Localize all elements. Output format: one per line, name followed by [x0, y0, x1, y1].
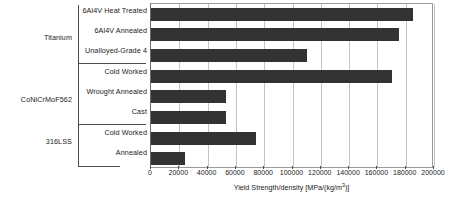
x-tick-label-0: 0 [148, 169, 152, 176]
x-axis-title: Yield Strength/density [MPa/(kg/m3)] [150, 182, 433, 192]
x-tick-label-160000: 160000 [365, 169, 388, 176]
bar-6 [151, 132, 256, 145]
group-label-316lss: 316LSS [8, 137, 72, 146]
gridline-180000 [406, 4, 407, 167]
bar-chart: Titanium CoNiCrMoF562 316LSS 6Al4V Heat … [0, 0, 463, 201]
group-label-titanium: Titanium [8, 33, 72, 42]
bar-7 [151, 152, 185, 165]
x-tick-label-40000: 40000 [197, 169, 216, 176]
bar-3 [151, 70, 392, 83]
category-label-cold-worked-cocr: Cold Worked [104, 67, 147, 76]
bar-1 [151, 28, 399, 41]
group-label-conicrmof562: CoNiCrMoF562 [2, 95, 72, 104]
x-tick-label-120000: 120000 [308, 169, 331, 176]
x-tick-label-60000: 60000 [225, 169, 244, 176]
x-tick-label-20000: 20000 [169, 169, 188, 176]
category-label-wrought-annealed: Wrought Annealed [86, 87, 147, 96]
category-label-6al4v-heat-treated: 6Al4V Heat Treated [82, 6, 147, 15]
x-axis-title-suffix: )] [345, 183, 349, 192]
bar-0 [151, 8, 413, 21]
plot-area [150, 3, 433, 168]
category-label-column: 6Al4V Heat Treated 6Al4V Annealed Unallo… [79, 0, 147, 168]
x-tick-label-200000: 200000 [421, 169, 444, 176]
category-label-cold-worked-316lss: Cold Worked [104, 128, 147, 137]
x-axis-title-prefix: Yield Strength/density [MPa/(kg/m [234, 183, 342, 192]
bar-4 [151, 90, 226, 103]
category-label-annealed: Annealed [116, 148, 147, 157]
bar-5 [151, 111, 226, 124]
bar-2 [151, 49, 307, 62]
x-tick-label-80000: 80000 [253, 169, 272, 176]
gridline-200000 [434, 4, 435, 167]
x-tick-label-180000: 180000 [393, 169, 416, 176]
x-tick-label-100000: 100000 [280, 169, 303, 176]
category-label-6al4v-annealed: 6Al4V Annealed [94, 26, 147, 35]
x-tick-label-140000: 140000 [336, 169, 359, 176]
category-label-unalloyed-grade-4: Unalloyed-Grade 4 [85, 46, 147, 55]
category-label-cast: Cast [132, 107, 147, 116]
